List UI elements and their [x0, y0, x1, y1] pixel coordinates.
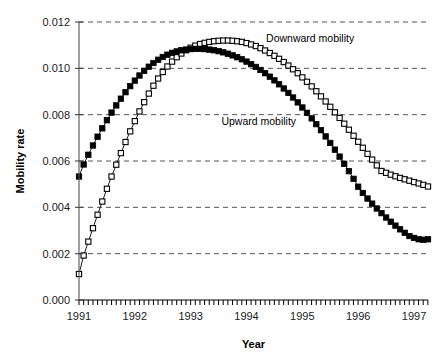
- x-axis-tick-label: 1993: [178, 310, 202, 322]
- data-point-marker: [132, 78, 137, 83]
- data-point-marker: [81, 162, 86, 167]
- data-point-marker: [425, 237, 430, 242]
- data-point-marker: [123, 139, 128, 144]
- data-point-marker: [360, 145, 365, 150]
- y-axis-tick-label: 0.008: [42, 109, 70, 121]
- x-axis-tick-label: 1991: [67, 310, 91, 322]
- y-axis-tick-label: 0.006: [42, 155, 70, 167]
- data-point-marker: [146, 91, 151, 96]
- data-point-marker: [356, 139, 361, 144]
- data-point-marker: [318, 127, 323, 132]
- data-point-marker: [132, 119, 137, 124]
- data-point-marker: [95, 212, 100, 217]
- y-axis-tick-label: 0.004: [42, 201, 70, 213]
- x-axis-tick-label: 1992: [123, 310, 147, 322]
- data-point-marker: [295, 100, 300, 105]
- data-point-marker: [351, 133, 356, 138]
- grid-layer: [79, 22, 428, 254]
- x-axis-tick-label: 1996: [346, 310, 370, 322]
- data-point-marker: [309, 116, 314, 121]
- data-point-marker: [137, 109, 142, 114]
- data-point-marker: [109, 110, 114, 115]
- data-point-marker: [118, 151, 123, 156]
- data-point-marker: [346, 127, 351, 132]
- data-point-marker: [318, 94, 323, 99]
- data-point-marker: [365, 151, 370, 156]
- data-point-marker: [346, 168, 351, 173]
- data-point-marker: [100, 199, 105, 204]
- data-point-marker: [360, 190, 365, 195]
- data-point-marker: [109, 174, 114, 179]
- data-point-marker: [86, 239, 91, 244]
- data-point-marker: [128, 129, 133, 134]
- data-point-marker: [425, 184, 430, 189]
- data-point-marker: [342, 121, 347, 126]
- y-axis-tick-label: 0.012: [42, 16, 70, 28]
- data-point-marker: [365, 196, 370, 201]
- x-axis-tick-label: 1997: [402, 310, 426, 322]
- data-point-marker: [323, 99, 328, 104]
- data-point-marker: [156, 76, 161, 81]
- data-point-marker: [90, 143, 95, 148]
- data-point-marker: [332, 110, 337, 115]
- series-layer: [76, 38, 430, 277]
- y-axis-tick-label: 0.010: [42, 62, 70, 74]
- y-axis-tick-label: 0.000: [42, 294, 70, 306]
- x-axis-tick-label: 1994: [234, 310, 258, 322]
- mobility-rate-line-chart: 0.0000.0020.0040.0060.0080.0100.01219911…: [0, 0, 439, 360]
- data-point-marker: [374, 163, 379, 168]
- data-point-marker: [151, 83, 156, 88]
- data-point-marker: [351, 176, 356, 181]
- data-point-marker: [90, 226, 95, 231]
- series-downward-mobility: [76, 38, 430, 277]
- data-point-marker: [160, 69, 165, 74]
- data-point-marker: [314, 89, 319, 94]
- chart-figure: 0.0000.0020.0040.0060.0080.0100.01219911…: [0, 0, 439, 360]
- series-annotation-label: Upward mobility: [221, 115, 296, 127]
- data-point-marker: [95, 134, 100, 139]
- data-point-marker: [342, 161, 347, 166]
- x-axis-tick-label: 1995: [290, 310, 314, 322]
- data-point-marker: [104, 186, 109, 191]
- y-axis-title: Mobility rate: [14, 129, 26, 194]
- x-axis-title: Year: [242, 338, 266, 350]
- data-point-marker: [337, 154, 342, 159]
- data-point-marker: [356, 184, 361, 189]
- data-point-marker: [118, 96, 123, 101]
- data-point-marker: [123, 89, 128, 94]
- data-point-marker: [300, 105, 305, 110]
- data-point-marker: [114, 162, 119, 167]
- data-point-marker: [104, 118, 109, 123]
- data-point-marker: [370, 157, 375, 162]
- series-upward-mobility: [76, 46, 430, 242]
- data-point-marker: [328, 104, 333, 109]
- data-point-marker: [314, 121, 319, 126]
- data-point-marker: [337, 115, 342, 120]
- data-point-marker: [142, 100, 147, 105]
- data-point-marker: [114, 103, 119, 108]
- data-point-marker: [323, 134, 328, 139]
- y-axis-tick-label: 0.002: [42, 248, 70, 260]
- data-point-marker: [100, 126, 105, 131]
- data-point-marker: [332, 147, 337, 152]
- data-point-marker: [86, 152, 91, 157]
- data-point-marker: [304, 110, 309, 115]
- data-point-marker: [128, 83, 133, 88]
- series-annotation-label: Downward mobility: [266, 32, 355, 44]
- data-point-marker: [328, 140, 333, 145]
- series-line: [79, 41, 428, 275]
